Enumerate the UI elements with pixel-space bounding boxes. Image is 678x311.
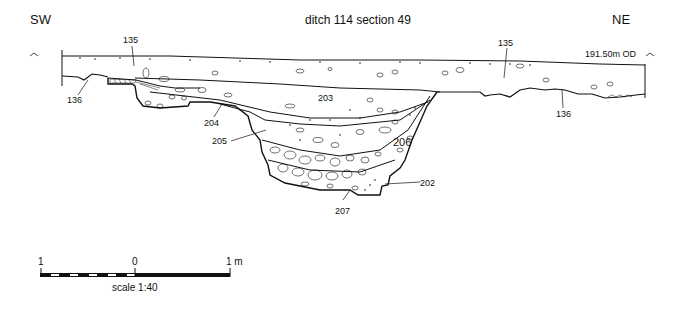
context-136-right: 136 [556,109,571,119]
datum-marker-right [646,53,654,56]
orientation-ne: NE [612,12,630,27]
drawing-title: ditch 114 section 49 [305,13,411,27]
scale-label-right: 1 m [226,256,243,267]
scale-label-left: 1 [38,256,44,267]
context-136-left: 136 [67,95,82,105]
orientation-sw: SW [30,12,51,27]
context-203: 203 [318,93,333,103]
scale-caption: scale 1:40 [112,282,158,293]
leader-lines [78,46,563,200]
context-204: 204 [204,118,219,128]
scale-label-zero: 0 [132,256,138,267]
context-206: 206 [393,136,411,148]
datum-marker-left [30,53,38,56]
context-207: 207 [335,206,350,216]
context-202: 202 [420,178,435,188]
context-205: 205 [212,136,227,146]
scale-bar [40,268,230,277]
context-135-right: 135 [498,38,513,48]
section-outline [62,50,645,195]
context-135-left: 135 [123,35,138,45]
section-drawing [0,0,678,311]
datum-label: 191.50m OD [585,49,636,59]
